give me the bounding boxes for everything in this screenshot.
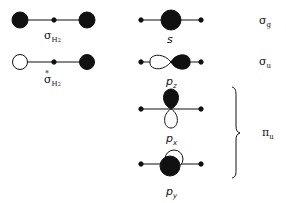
nucleus-dot-icon: [139, 18, 143, 22]
label-subscript: g: [267, 21, 271, 29]
orbital-diagram: [0, 0, 286, 203]
label-p: p: [166, 132, 173, 145]
sub-2: 2: [58, 37, 61, 43]
py-lobe-filled-icon: [160, 156, 180, 176]
label-subscript: H2: [52, 80, 61, 88]
nucleus-dot-icon: [139, 162, 143, 166]
label-subscript: u: [269, 133, 274, 141]
label-pi-u: πu: [262, 127, 274, 143]
label-subscript: x: [173, 139, 177, 147]
pz-lobe-filled-icon: [171, 55, 190, 69]
label-sigma-u: σu: [259, 56, 271, 72]
s-orbital-sphere-icon: [161, 10, 181, 30]
label-subscript: z: [173, 82, 177, 90]
atom-orbital-filled-icon: [12, 12, 28, 28]
sub-2: 2: [58, 81, 61, 87]
pz-orbital-diagram: [139, 55, 203, 69]
px-lobe-empty-icon: [165, 109, 178, 128]
nucleus-dot-icon: [139, 60, 143, 64]
label-sigma-g: σg: [259, 15, 271, 31]
nucleus-dot-icon: [199, 60, 203, 64]
label-subscript: H2: [52, 36, 61, 44]
label-py: py: [166, 186, 177, 202]
atom-orbital-empty-icon: [13, 55, 28, 70]
atom-orbital-filled-icon: [80, 55, 95, 70]
sigma-h2-antibonding-diagram: [13, 55, 95, 70]
atom-orbital-filled-icon: [79, 12, 95, 28]
nucleus-dot-icon: [199, 18, 203, 22]
label-p: p: [166, 75, 173, 88]
label-symbol: σ: [259, 55, 267, 68]
label-symbol: σ: [259, 14, 267, 27]
label-pz: pz: [166, 76, 177, 92]
grouping-brace-icon: [232, 87, 240, 178]
center-point-icon: [52, 60, 56, 64]
label-sigma-h2: σH2: [44, 30, 61, 46]
label-px: px: [166, 133, 177, 149]
label-subscript: y: [173, 192, 177, 200]
label-sigma-star-h2: σH2: [44, 74, 61, 90]
pz-lobe-empty-icon: [150, 55, 171, 69]
nucleus-dot-icon: [139, 107, 143, 111]
sigma-h2-bonding-diagram: [12, 12, 95, 28]
px-lobe-filled-icon: [164, 89, 179, 109]
label-symbol: σ: [44, 73, 52, 86]
nucleus-dot-icon: [199, 107, 203, 111]
nucleus-dot-icon: [199, 162, 203, 166]
px-orbital-diagram: [139, 89, 203, 128]
py-orbital-diagram: [139, 150, 203, 176]
label-s: s: [167, 34, 173, 45]
label-symbol: σ: [44, 29, 52, 42]
center-point-icon: [52, 18, 56, 22]
label-subscript: u: [267, 62, 272, 70]
s-orbital-diagram: [139, 10, 203, 30]
label-p: p: [166, 185, 173, 198]
